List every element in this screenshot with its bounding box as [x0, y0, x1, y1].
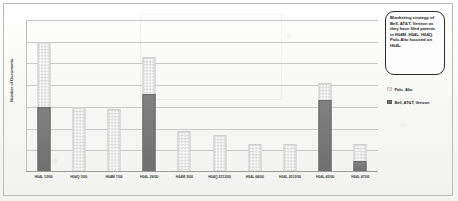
bar-group — [167, 20, 202, 172]
bar-stack — [283, 20, 296, 172]
bar-stack — [248, 20, 261, 172]
bar-group — [96, 20, 131, 172]
bar-palo-alto — [213, 135, 226, 172]
x-axis-line — [26, 171, 378, 172]
legend-item: Palo_Alto — [387, 86, 453, 92]
bar-group — [343, 20, 378, 172]
legend-swatch-icon — [387, 87, 392, 92]
legend-item-label: Bell, AT&T, Verizon — [395, 100, 430, 105]
x-axis-tick-labels: H04L 12/00H04Q 3/00H04M 7/00H04L 29/00H0… — [26, 174, 378, 186]
chart-page: Number of Documents H04L 12/00H04Q 3/00H… — [0, 0, 458, 201]
bar-stack — [178, 20, 191, 172]
bar-stack — [72, 20, 85, 172]
legend-swatch-icon — [387, 100, 392, 105]
bar-group — [132, 20, 167, 172]
bar-group — [237, 20, 272, 172]
bar-group — [272, 20, 307, 172]
bar-group — [26, 20, 61, 172]
legend-item-label: Palo_Alto — [395, 87, 413, 92]
annotation-callout: Blanketing strategy of Bell, AT&T, Veriz… — [385, 11, 445, 75]
bar-stack — [37, 20, 50, 172]
bar-palo-alto — [283, 144, 296, 172]
bar-group — [202, 20, 237, 172]
bar-palo-alto — [72, 107, 85, 172]
bar-palo-alto — [178, 131, 191, 172]
bar-stack — [354, 20, 367, 172]
annotation-callout-text: Blanketing strategy of Bell, AT&T, Veriz… — [390, 15, 440, 48]
bar-group — [61, 20, 96, 172]
chart-legend: Palo_AltoBell, AT&T, Verizon — [387, 86, 453, 112]
plot-area — [26, 20, 378, 172]
y-axis-title: Number of Documents — [9, 43, 14, 119]
bar-bell-att-verizon — [37, 107, 50, 172]
bar-palo-alto — [107, 109, 120, 172]
bar-palo-alto — [248, 144, 261, 172]
bar-stack — [213, 20, 226, 172]
x-axis-tick-label: H04L 47/00 — [337, 174, 383, 181]
bar-group — [308, 20, 343, 172]
bar-bell-att-verizon — [319, 100, 332, 172]
bar-stack — [107, 20, 120, 172]
legend-item: Bell, AT&T, Verizon — [387, 99, 453, 105]
bar-stack — [143, 20, 156, 172]
bar-stack — [319, 20, 332, 172]
bar-bell-att-verizon — [143, 94, 156, 172]
